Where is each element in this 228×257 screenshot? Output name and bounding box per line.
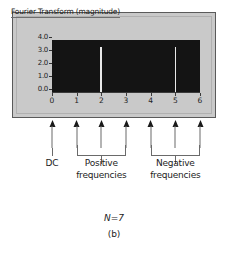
y-axis-labels: 4.0 3.0 2.0 1.0 0.0 [22,34,52,98]
callout-arrow-4 [146,120,155,148]
x-tick-label-4: 4 [148,97,153,105]
y-tick-label-1: 1.0 [38,73,48,80]
chart-title: Fourier Transform (magnitude) [11,7,120,18]
y-tick-label-4: 4.0 [38,34,48,41]
callout-arrow-3 [122,120,131,148]
dc-leader-line [52,148,53,156]
x-tick-label-5: 5 [173,97,178,105]
positive-frequencies-label-line2: frequencies [76,170,126,180]
y-tick-label-0: 0.0 [38,86,48,93]
callout-arrow-5 [171,120,180,148]
caption-label: (b) [108,229,121,239]
dc-label: DC [46,158,59,170]
spectrum-spike-k2 [100,47,101,92]
x-tick-label-0: 0 [50,97,55,105]
callout-arrow-0 [48,120,57,148]
negative-frequencies-label-line1: Negative [156,158,195,168]
callout-arrow-2 [97,120,106,148]
spectrum-spike-k5 [175,47,176,92]
positive-frequencies-bracket [77,145,126,156]
y-tick-dash-4 [49,37,52,38]
positive-frequencies-label: Positive frequencies [76,158,126,181]
x-tick-label-6: 6 [198,97,203,105]
positive-frequencies-label-line1: Positive [85,158,118,168]
x-tick-label-2: 2 [99,97,104,105]
negative-frequencies-label: Negative frequencies [150,158,200,181]
y-tick-label-2: 2.0 [38,60,48,67]
negative-frequencies-label-line2: frequencies [150,170,200,180]
callout-arrow-6 [196,120,205,148]
y-tick-label-3: 3.0 [38,47,48,54]
negative-frequencies-bracket [151,145,200,156]
callout-arrow-1 [72,120,81,148]
caption-n-value: N=7 [104,213,124,223]
plot-area [52,40,200,92]
x-tick-label-1: 1 [74,97,79,105]
dc-label-text: DC [46,158,59,168]
x-tick-label-3: 3 [124,97,129,105]
arrow-shaft [52,126,53,148]
figure-container: Fourier Transform (magnitude) 4.0 3.0 2.… [0,0,228,257]
